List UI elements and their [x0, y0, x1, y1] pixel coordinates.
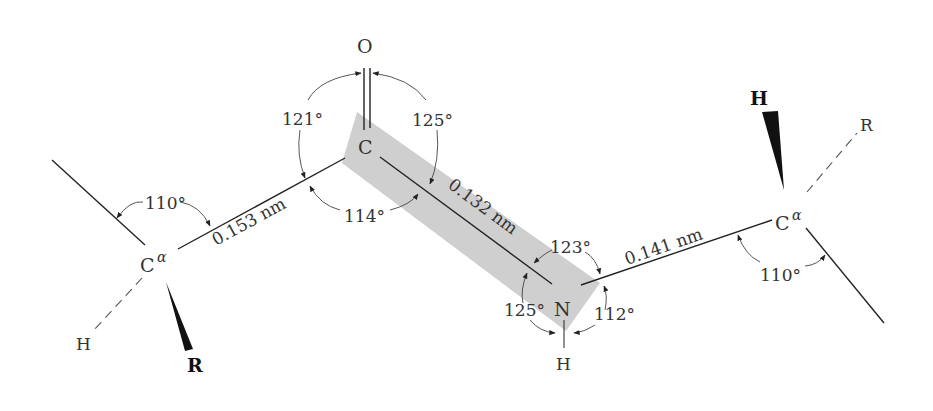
calpha-c-length-label: 0.153 nm [208, 193, 289, 249]
angle-right-calpha-label: 110° [760, 265, 801, 285]
n-calpha-length-label: 0.141 nm [622, 224, 705, 269]
amide-nitrogen-label: N [554, 298, 571, 320]
n-calpha-bond [581, 220, 772, 285]
right-r-label: R [860, 115, 874, 135]
left-calpha-alpha: α [157, 249, 167, 265]
left-h-dashed-bond [94, 278, 142, 330]
c-n-bond [380, 157, 552, 284]
peptide-bond-diagram: O C N H C α H R C α H R 0.153 nm 0.132 n… [0, 0, 933, 411]
right-backbone-bond [806, 228, 884, 323]
right-h-wedge [762, 111, 784, 190]
right-h-label: H [750, 87, 768, 109]
right-calpha-label: C [775, 212, 790, 234]
carbonyl-oxygen-label: O [357, 35, 373, 57]
angle-o-c-calpha-label: 121° [282, 109, 323, 129]
angle-c-n-calpha-label: 123° [550, 237, 591, 257]
angle-o-c-n-label: 125° [412, 110, 453, 130]
angle-c-n-h-label: 125° [504, 300, 545, 320]
angle-calpha-c-n-label: 114° [344, 206, 385, 226]
right-r-dashed-bond [807, 133, 857, 192]
angle-calpha-n-h-label: 112° [594, 304, 635, 324]
left-h-label: H [76, 334, 91, 354]
left-r-label: R [187, 354, 203, 376]
right-calpha-110-arc [738, 235, 825, 266]
right-calpha-alpha: α [792, 207, 802, 223]
amide-hydrogen-label: H [556, 354, 571, 374]
left-backbone-bond [52, 160, 145, 245]
carbonyl-carbon-label: C [358, 136, 373, 158]
left-calpha-label: C [140, 254, 155, 276]
angle-left-calpha-label: 110° [145, 193, 186, 213]
left-r-wedge [166, 282, 193, 351]
